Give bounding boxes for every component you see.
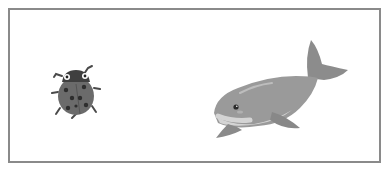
ladybug-icon xyxy=(50,62,104,120)
image-canvas xyxy=(0,0,385,169)
whale-icon xyxy=(210,38,355,140)
